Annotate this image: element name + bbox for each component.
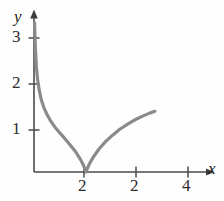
x-tick-label-2: 2 [130,177,139,194]
y-tick-label-1: 1 [12,120,21,137]
x-axis-label: x [208,160,216,177]
x-tick-label-1: 2 [78,177,87,194]
plot-canvas [0,0,224,201]
y-tick-label-2: 2 [12,74,21,91]
graph-figure: 3 2 1 2 2 4 y x [0,0,224,201]
y-tick-label-3: 3 [12,28,21,45]
y-axis-label: y [14,8,22,25]
function-curve [35,23,155,173]
x-tick-label-3: 4 [182,177,191,194]
